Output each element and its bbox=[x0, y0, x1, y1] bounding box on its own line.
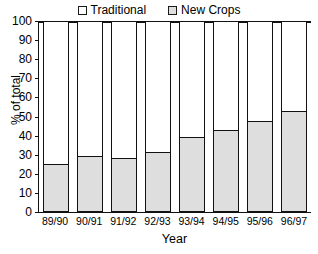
stacked-bar bbox=[111, 21, 138, 212]
x-axis-tick-label: 96/97 bbox=[277, 215, 311, 227]
plot-area: 1009080706050403020100 bbox=[38, 21, 311, 213]
gray-square-icon bbox=[168, 6, 177, 15]
bar-slot bbox=[243, 21, 277, 212]
x-axis-tick-label: 92/93 bbox=[140, 215, 174, 227]
legend-entry-new-crops: New Crops bbox=[168, 4, 240, 16]
stacked-bar bbox=[43, 21, 70, 212]
bar-slot bbox=[107, 21, 141, 212]
x-axis-tick-labels: 89/9090/9191/9292/9393/9494/9595/9696/97 bbox=[38, 215, 311, 227]
bar-segment-traditional bbox=[214, 22, 239, 130]
x-axis-tick-label: 91/92 bbox=[106, 215, 140, 227]
bar-slot bbox=[141, 21, 175, 212]
bar-slot bbox=[73, 21, 107, 212]
plot-inner: 1009080706050403020100 bbox=[39, 21, 311, 212]
y-axis-tick bbox=[35, 174, 39, 175]
y-axis-tick-label: 0 bbox=[25, 206, 32, 218]
y-axis-tick bbox=[35, 40, 39, 41]
y-axis-tick-label: 20 bbox=[19, 168, 32, 180]
bars-container bbox=[39, 21, 311, 212]
y-axis-tick-label: 100 bbox=[12, 15, 32, 27]
bar-segment-new-crops bbox=[112, 158, 137, 211]
stacked-bar bbox=[213, 21, 240, 212]
y-axis-tick bbox=[35, 117, 39, 118]
bar-segment-traditional bbox=[180, 22, 205, 137]
y-axis-tick-label: 40 bbox=[19, 130, 32, 142]
legend-label-new-crops: New Crops bbox=[181, 4, 240, 16]
bar-segment-traditional bbox=[146, 22, 171, 152]
x-axis-title: Year bbox=[38, 232, 311, 246]
stacked-bar bbox=[247, 21, 274, 212]
y-axis-tick-label: 60 bbox=[19, 91, 32, 103]
bar-segment-new-crops bbox=[214, 130, 239, 211]
legend-label-traditional: Traditional bbox=[91, 4, 147, 16]
stacked-bar bbox=[179, 21, 206, 212]
x-axis-tick-label: 94/95 bbox=[209, 215, 243, 227]
x-axis-tick-label: 95/96 bbox=[243, 215, 277, 227]
y-axis-tick bbox=[35, 212, 39, 213]
y-axis-tick-label: 80 bbox=[19, 53, 32, 65]
y-axis-tick-label: 30 bbox=[19, 149, 32, 161]
y-axis-tick bbox=[35, 155, 39, 156]
stacked-bar-chart: Traditional New Crops % of total 1009080… bbox=[0, 0, 318, 254]
stacked-bar bbox=[77, 21, 104, 212]
y-axis-tick-label: 10 bbox=[19, 187, 32, 199]
legend-entry-traditional: Traditional bbox=[78, 4, 147, 16]
x-axis-tick-label: 90/91 bbox=[72, 215, 106, 227]
x-axis-tick-label: 89/90 bbox=[38, 215, 72, 227]
bar-segment-traditional bbox=[112, 22, 137, 158]
bar-segment-new-crops bbox=[180, 137, 205, 211]
bar-segment-new-crops bbox=[146, 152, 171, 211]
bar-segment-new-crops bbox=[78, 156, 103, 211]
bar-segment-traditional bbox=[44, 22, 69, 164]
stacked-bar bbox=[281, 21, 308, 212]
y-axis-tick-label: 70 bbox=[19, 72, 32, 84]
y-axis-tick bbox=[35, 136, 39, 137]
y-axis-tick bbox=[35, 59, 39, 60]
bar-slot bbox=[39, 21, 73, 212]
y-axis-tick-label: 50 bbox=[19, 111, 32, 123]
bar-segment-traditional bbox=[248, 22, 273, 121]
bar-slot bbox=[277, 21, 311, 212]
bar-segment-new-crops bbox=[44, 164, 69, 211]
y-axis-tick bbox=[35, 78, 39, 79]
y-axis-tick bbox=[35, 193, 39, 194]
bar-segment-traditional bbox=[282, 22, 307, 111]
y-axis-tick bbox=[35, 21, 39, 22]
chart-legend: Traditional New Crops bbox=[0, 1, 318, 19]
bar-segment-new-crops bbox=[248, 121, 273, 211]
stacked-bar bbox=[145, 21, 172, 212]
bar-segment-traditional bbox=[78, 22, 103, 156]
y-axis-tick bbox=[35, 97, 39, 98]
x-axis-tick-label: 93/94 bbox=[175, 215, 209, 227]
bar-segment-new-crops bbox=[282, 111, 307, 211]
y-axis-tick-label: 90 bbox=[19, 34, 32, 46]
bar-slot bbox=[175, 21, 209, 212]
white-square-icon bbox=[78, 6, 87, 15]
bar-slot bbox=[209, 21, 243, 212]
